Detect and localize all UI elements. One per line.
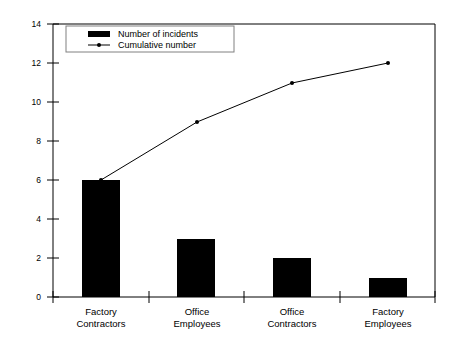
cat-label-line2: Employees (174, 318, 221, 329)
cat-label-line2: Contractors (76, 318, 125, 329)
cat-label-line1: Office (280, 306, 305, 317)
y-tick-label: 8 (36, 136, 41, 146)
bar-factory-contractors[interactable] (82, 180, 120, 297)
y-tick-label: 4 (36, 214, 41, 224)
legend-label-incidents: Number of incidents (118, 29, 199, 39)
y-tick-label: 6 (36, 175, 41, 185)
legend-marker-dot-icon (97, 43, 101, 47)
y-tick-label: 2 (36, 253, 41, 263)
legend-bar-swatch-icon (88, 31, 110, 37)
cat-label-line2: Contractors (267, 318, 316, 329)
y-tick-label: 10 (32, 97, 42, 107)
line-marker-factory-employees[interactable] (386, 61, 390, 65)
bar-factory-employees[interactable] (369, 278, 407, 297)
line-marker-factory-contractors[interactable] (99, 178, 103, 182)
cat-label-line2: Employees (365, 318, 412, 329)
bar-office-contractors[interactable] (273, 258, 311, 297)
chart-container: 0 2 4 6 8 10 1 (0, 0, 459, 348)
bar-office-employees[interactable] (177, 239, 215, 297)
line-marker-office-contractors[interactable] (290, 81, 294, 85)
incidents-bar-line-chart: 0 2 4 6 8 10 1 (0, 0, 459, 348)
line-marker-office-employees[interactable] (195, 120, 199, 124)
legend-label-cumulative: Cumulative number (118, 40, 196, 50)
cat-label-line1: Factory (372, 306, 404, 317)
chart-legend[interactable]: Number of incidents Cumulative number (66, 26, 234, 52)
y-tick-label: 0 (36, 292, 41, 302)
cat-label-line1: Factory (85, 306, 117, 317)
y-tick-label: 12 (32, 58, 42, 68)
y-tick-label: 14 (32, 19, 42, 29)
cat-label-line1: Office (185, 306, 210, 317)
